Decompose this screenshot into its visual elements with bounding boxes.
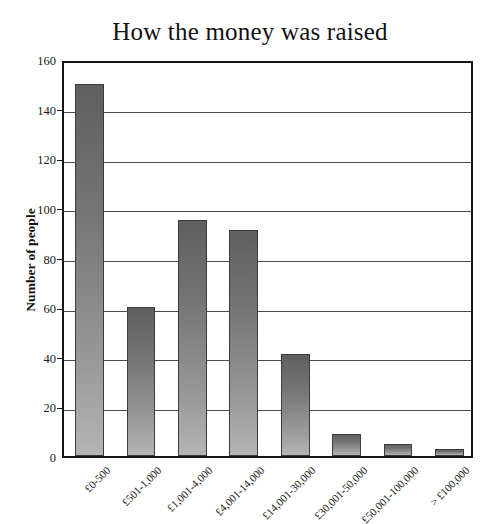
bar[interactable] <box>229 230 258 456</box>
x-axis-tick-label: £501-1,000 <box>119 464 163 508</box>
gridline <box>64 162 471 163</box>
x-axis-tick-label-text: > £100,000 <box>428 464 472 508</box>
bar[interactable] <box>332 434 361 456</box>
bar[interactable] <box>281 354 310 456</box>
y-axis-tick-label: 40 <box>10 351 56 366</box>
x-axis-tick-label: £30,001-50,000 <box>311 464 369 522</box>
y-axis-tick-label: 60 <box>10 302 56 317</box>
y-axis-tick-label: 140 <box>10 103 56 118</box>
chart-title: How the money was raised <box>0 18 500 46</box>
x-axis-tick-label-text: £501-1,000 <box>119 464 163 508</box>
x-axis-tick-label: > £100,000 <box>428 464 472 508</box>
x-axis-tick-label: £1,001-4,000 <box>165 464 215 514</box>
gridline <box>64 360 471 361</box>
y-axis-tick-label: 160 <box>10 54 56 69</box>
bar[interactable] <box>75 84 104 456</box>
bar-chart: How the money was raised Number of peopl… <box>0 0 500 524</box>
x-axis-tick-label-text: £14,001-30,000 <box>260 464 318 522</box>
plot-area <box>62 61 473 458</box>
bar[interactable] <box>127 307 156 456</box>
x-axis-tick-label-text: £4,001-14,000 <box>212 464 266 518</box>
y-axis-tick-label: 20 <box>10 401 56 416</box>
y-axis-tick-label: 80 <box>10 252 56 267</box>
gridline <box>64 261 471 262</box>
x-axis-tick-label-text: £1,001-4,000 <box>165 464 215 514</box>
gridline <box>64 211 471 212</box>
x-axis-tick-label-text: £0-500 <box>82 464 113 495</box>
x-axis-tick-label: £0-500 <box>82 464 113 495</box>
gridline <box>64 410 471 411</box>
x-axis-tick-label-text: £30,001-50,000 <box>311 464 369 522</box>
x-axis-tick-label: £14,001-30,000 <box>260 464 318 522</box>
bar[interactable] <box>435 449 464 456</box>
y-axis-tick-label: 120 <box>10 153 56 168</box>
bar[interactable] <box>384 444 413 456</box>
x-axis-tick-labels: £0-500£501-1,000£1,001-4,000£4,001-14,00… <box>0 458 500 524</box>
gridline <box>64 311 471 312</box>
y-axis-tick-label: 100 <box>10 202 56 217</box>
gridline <box>64 112 471 113</box>
bar[interactable] <box>178 220 207 456</box>
x-axis-tick-label: £4,001-14,000 <box>212 464 266 518</box>
